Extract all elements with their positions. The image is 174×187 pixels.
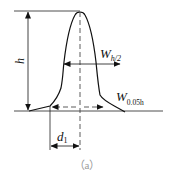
d1-label: d1 — [57, 129, 68, 145]
figure-caption: （a） — [74, 159, 101, 171]
base-width-label: W0.05h — [116, 89, 144, 107]
half-width-label: Wh/2 — [100, 46, 121, 63]
peak-diagram: h Wh/2 W0.05h d1 （a） — [0, 0, 174, 187]
height-label: h — [13, 58, 27, 64]
